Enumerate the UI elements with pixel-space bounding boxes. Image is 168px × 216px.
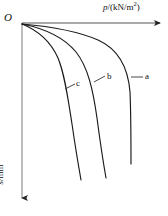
curve-b (22, 24, 106, 178)
y-axis-label-unit: /mm (0, 164, 5, 181)
leader-line-b (94, 76, 105, 82)
curve-a (22, 24, 131, 164)
curve-label-a: a (145, 72, 149, 81)
origin-label: O (4, 12, 12, 23)
load-settlement-chart: O p/(kN/m2) s/mm a b c (0, 0, 168, 216)
chart-canvas (0, 0, 168, 216)
y-axis-label-symbol: s (0, 181, 5, 185)
curve-label-b: b (107, 72, 112, 81)
curve-label-c: c (76, 79, 80, 88)
y-axis-label: s/mm (0, 164, 5, 184)
x-axis-label-unit: /(kN/m (108, 2, 134, 12)
x-axis-label-paren: ) (137, 2, 140, 12)
x-axis-label: p/(kN/m2) (103, 3, 140, 12)
leader-line-c (65, 84, 75, 89)
